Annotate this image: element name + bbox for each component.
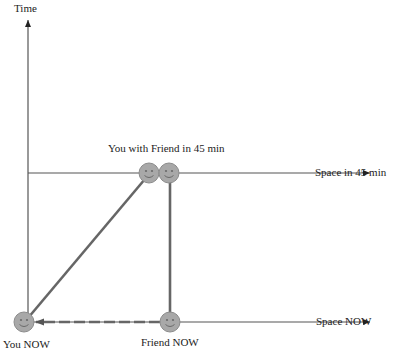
time-axis-label: Time xyxy=(14,2,37,14)
you-now-label: You NOW xyxy=(3,338,50,350)
space-now-label: Space NOW xyxy=(316,315,371,327)
spacetime-diagram xyxy=(0,0,394,362)
you-worldline xyxy=(28,179,145,318)
you-45-smiley-icon xyxy=(139,163,159,183)
space-45-label: Space in 45 min xyxy=(315,166,386,178)
you-now-smiley-icon xyxy=(14,312,34,332)
meeting-label: You with Friend in 45 min xyxy=(108,142,225,154)
friend-now-smiley-icon xyxy=(160,312,180,332)
friend-45-smiley-icon xyxy=(159,163,179,183)
friend-now-label: Friend NOW xyxy=(141,336,199,348)
